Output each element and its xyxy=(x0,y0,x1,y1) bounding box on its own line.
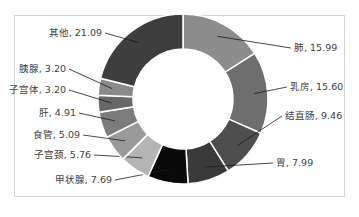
data-label-7: 肝, 4.91 xyxy=(39,107,76,118)
data-label-5: 子宫颈, 5.76 xyxy=(34,149,91,160)
doughnut-chart: 肺, 15.99乳房, 15.60结直肠, 9.46胃, 7.99甲状腺, 7.… xyxy=(0,0,359,217)
data-label-8: 子宫体, 3.20 xyxy=(9,84,66,95)
data-label-3: 胃, 7.99 xyxy=(276,157,313,168)
slice-10 xyxy=(101,14,183,87)
data-label-2: 结直肠, 9.46 xyxy=(285,110,342,121)
data-label-1: 乳房, 15.60 xyxy=(290,81,343,92)
data-label-0: 肺, 15.99 xyxy=(294,42,337,53)
data-label-10: 其他, 21.09 xyxy=(49,27,102,38)
data-label-6: 食管, 5.09 xyxy=(33,129,80,140)
data-label-9: 胰腺, 3.20 xyxy=(19,63,66,74)
data-label-4: 甲状腺, 7.69 xyxy=(55,174,112,185)
